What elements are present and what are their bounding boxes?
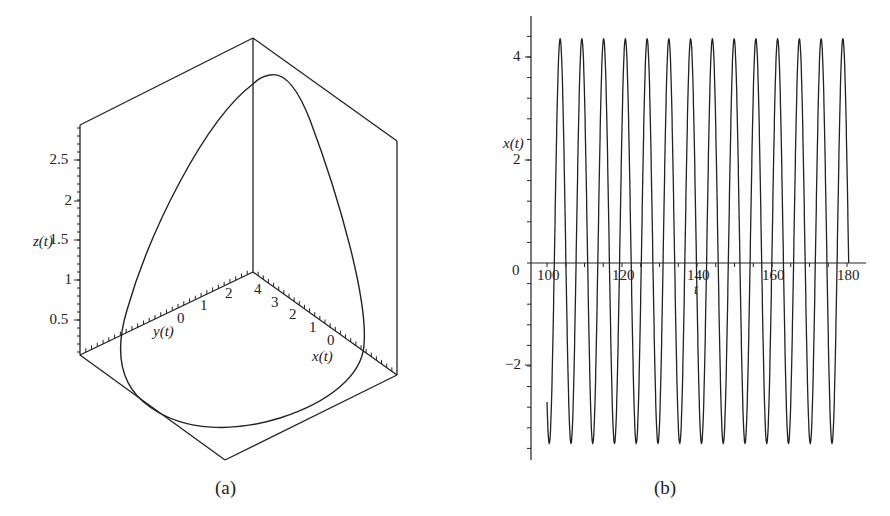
y-axis-label: y(t) bbox=[153, 324, 174, 339]
y-tick-label: 2 bbox=[225, 286, 233, 301]
3d-plot-canvas bbox=[0, 0, 450, 516]
z-tick-label: 2.5 bbox=[50, 152, 69, 167]
x-tick-label: 160 bbox=[762, 268, 785, 283]
y-tick-label: 4 bbox=[513, 49, 521, 64]
z-tick-label: 1.5 bbox=[50, 232, 69, 247]
panel-a-3d-plot: z(t) 2.521.510.5 y(t) x(t) 012 43210 (a) bbox=[0, 0, 450, 516]
y-tick-label: 1 bbox=[200, 298, 208, 313]
x-tick-label: 0 bbox=[327, 333, 335, 348]
y-axis-label-b: x(t) bbox=[503, 136, 524, 151]
x-tick-label: 120 bbox=[612, 268, 635, 283]
x-tick-label: 3 bbox=[271, 295, 279, 310]
time-series-canvas bbox=[450, 0, 890, 516]
bounding-box bbox=[80, 38, 397, 460]
z-tick-label: 2 bbox=[65, 193, 73, 208]
origin-label: 0 bbox=[512, 263, 520, 278]
y-tick-label: −2 bbox=[505, 357, 521, 372]
x-tick-label: 1 bbox=[309, 320, 317, 335]
y-tick-label: 2 bbox=[513, 152, 521, 167]
caption-b: (b) bbox=[654, 478, 676, 497]
x-axis-label-b: t bbox=[694, 283, 698, 297]
panel-b-time-series: x(t) 0 t 42−2 100120140160180 (b) bbox=[450, 0, 890, 516]
caption-a: (a) bbox=[215, 478, 236, 497]
x-tick-label: 180 bbox=[837, 268, 860, 283]
y-tick-label: 0 bbox=[177, 311, 185, 326]
z-tick-label: 1 bbox=[65, 272, 73, 287]
x-tick-label: 2 bbox=[289, 307, 297, 322]
x-axis-label: x(t) bbox=[312, 349, 333, 364]
x-of-t-series bbox=[547, 39, 849, 443]
x-tick-label: 140 bbox=[687, 268, 710, 283]
z-tick-label: 0.5 bbox=[50, 312, 69, 327]
x-tick-label: 4 bbox=[254, 282, 262, 297]
limit-cycle-curve bbox=[121, 75, 365, 428]
x-tick-label: 100 bbox=[537, 268, 560, 283]
